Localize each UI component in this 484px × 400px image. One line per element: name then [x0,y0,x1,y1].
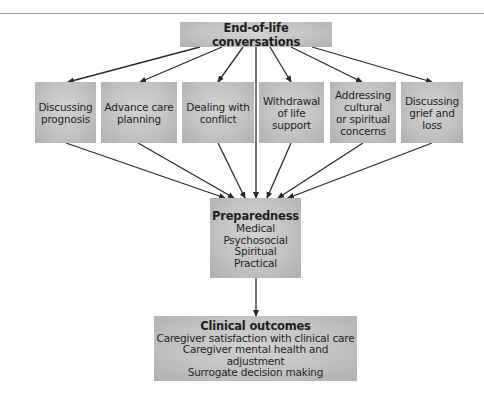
topic-line: Advance care [105,101,174,113]
topic-dealing-with-conflict: Dealing with conflict [182,82,254,143]
topic-discussing-grief-and-loss: Discussing grief and loss [401,82,463,143]
topic-advance-care-planning: Advance care planning [101,82,177,143]
topic-line: prognosis [41,113,90,125]
outcome-item: Caregiver mental health and adjustment [154,344,357,367]
topic-line: Discussing [38,101,92,113]
topic-line: cultural [344,101,382,113]
topic-withdrawal-of-life-support: Withdrawal of life support [259,82,324,143]
topic-line: planning [117,113,161,125]
box-title: Preparedness [212,209,299,223]
topic-line: Dealing with [186,101,249,113]
topic-line: or spiritual [336,113,390,125]
topic-line: concerns [340,125,386,137]
topic-line: support [272,119,311,131]
preparedness-item: Spiritual [235,246,277,258]
preparedness-item: Medical [236,223,275,235]
topic-line: Addressing [335,89,391,101]
topic-line: Discussing [405,95,459,107]
topic-addressing-cultural-spiritual-concerns: Addressing cultural or spiritual concern… [330,82,396,143]
box-title: Clinical outcomes [200,319,311,333]
topic-line: of life [277,107,305,119]
end-of-life-conversations-box: End-of-life conversations [180,22,332,47]
topic-line: grief and [409,107,454,119]
outcome-item: Surrogate decision making [188,367,324,379]
topic-discussing-prognosis: Discussing prognosis [35,82,96,143]
topic-line: conflict [200,113,237,125]
box-title: End-of-life conversations [180,21,332,49]
preparedness-box: Preparedness Medical Psychosocial Spirit… [210,198,301,278]
topic-line: Withdrawal [263,95,320,107]
preparedness-item: Practical [234,258,277,270]
topic-line: loss [422,119,441,131]
clinical-outcomes-box: Clinical outcomes Caregiver satisfaction… [154,316,357,381]
